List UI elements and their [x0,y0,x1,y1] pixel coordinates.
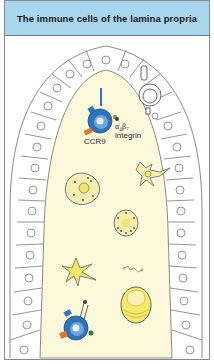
ccr9-label: CCR9 [84,137,106,146]
villus-diagram [0,0,214,364]
plasma-cell [114,210,138,236]
integrin-symbol-label: α₄β₇ [115,122,129,131]
eosinophil [121,287,151,323]
macrophage [65,173,99,204]
integrin-label: integrin [115,131,141,140]
